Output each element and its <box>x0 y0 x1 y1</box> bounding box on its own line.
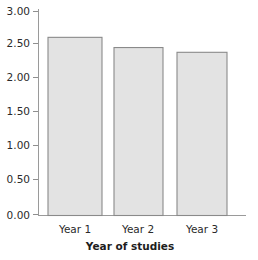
x-tick-label-year-2: Year 2 <box>121 223 154 235</box>
chart-canvas: 3.00 2.50 2.00 1.50 1.00 0.50 0.00 <box>0 0 258 260</box>
y-tick-label-2-50: 2.50 <box>7 37 30 49</box>
x-tick-label-year-3: Year 3 <box>185 223 218 235</box>
x-tick-label-year-1: Year 1 <box>58 223 91 235</box>
y-axis-tick-labels: 3.00 2.50 2.00 1.50 1.00 0.50 0.00 <box>7 5 30 221</box>
bar-year-2 <box>114 48 163 216</box>
bar-chart: 3.00 2.50 2.00 1.50 1.00 0.50 0.00 <box>0 0 258 260</box>
y-tick-label-1-50: 1.50 <box>7 105 30 117</box>
bar-year-1 <box>48 37 102 215</box>
x-axis-tick-labels: Year 1 Year 2 Year 3 <box>58 223 218 235</box>
y-tick-label-0-00: 0.00 <box>7 209 30 221</box>
y-tick-label-0-50: 0.50 <box>7 173 30 185</box>
bars-group <box>48 37 227 215</box>
y-tick-label-3-00: 3.00 <box>7 5 30 17</box>
y-tick-label-1-00: 1.00 <box>7 139 30 151</box>
bar-year-3 <box>177 52 227 215</box>
y-axis-tick-marks <box>33 12 39 215</box>
x-axis-title: Year of studies <box>85 240 174 252</box>
y-tick-label-2-00: 2.00 <box>7 71 30 83</box>
